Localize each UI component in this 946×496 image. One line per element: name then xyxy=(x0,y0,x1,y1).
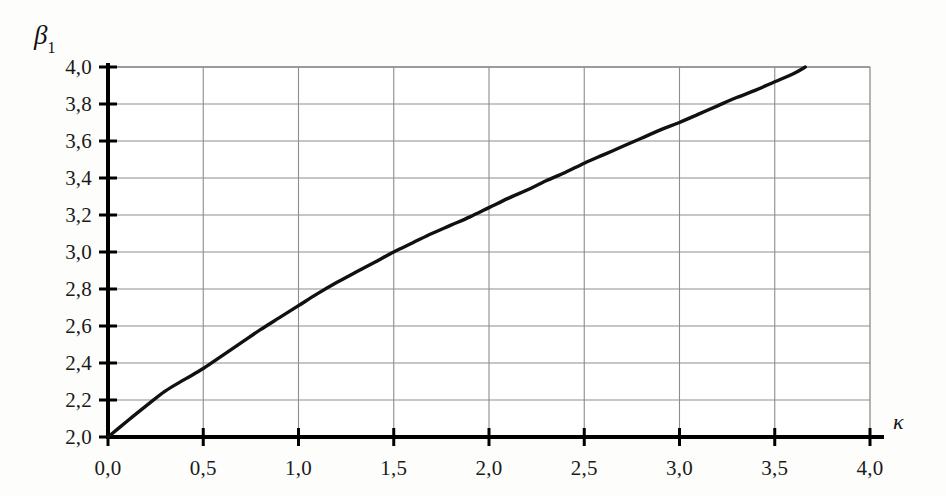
y-tick-label: 3,0 xyxy=(65,242,92,263)
y-tick-label: 2,8 xyxy=(65,279,92,300)
x-tick-label: 3,0 xyxy=(666,458,693,479)
x-tick-label: 2,0 xyxy=(476,458,503,479)
x-tick-label: 1,0 xyxy=(285,458,312,479)
x-axis-label: κ xyxy=(893,411,904,433)
figure-page: 2,02,22,42,62,83,03,23,43,63,84,0 0,00,5… xyxy=(0,0,946,496)
plot-canvas xyxy=(0,0,946,496)
y-tick-label: 2,6 xyxy=(65,316,92,337)
y-tick-label: 3,8 xyxy=(65,94,92,115)
y-tick-label: 3,6 xyxy=(65,131,92,152)
x-tick-label: 0,0 xyxy=(95,458,122,479)
x-tick-label: 2,5 xyxy=(571,458,598,479)
y-tick-label: 2,2 xyxy=(65,390,92,411)
x-tick-label: 0,5 xyxy=(190,458,217,479)
y-tick-label: 2,4 xyxy=(65,353,92,374)
y-tick-label: 2,0 xyxy=(65,427,92,448)
y-axis-label-symbol: β xyxy=(34,20,47,50)
y-tick-label: 3,4 xyxy=(65,168,92,189)
y-axis-label-subscript: 1 xyxy=(47,39,55,56)
x-tick-label: 1,5 xyxy=(380,458,407,479)
y-tick-label: 3,2 xyxy=(65,205,92,226)
y-tick-label: 4,0 xyxy=(65,57,92,78)
x-tick-label: 4,0 xyxy=(857,458,884,479)
x-tick-label: 3,5 xyxy=(761,458,788,479)
chart-figure: 2,02,22,42,62,83,03,23,43,63,84,0 0,00,5… xyxy=(0,0,946,496)
y-axis-label: β1 xyxy=(34,22,55,53)
